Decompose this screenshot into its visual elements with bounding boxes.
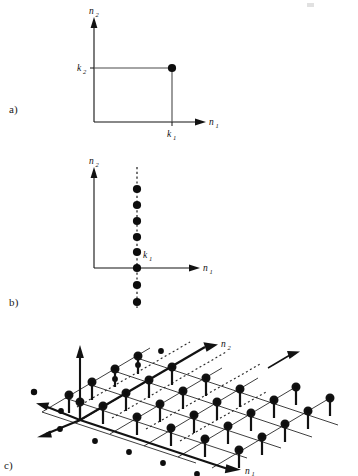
svg-text:n: n bbox=[89, 6, 94, 16]
panel-b-label-k1: k 1 bbox=[143, 250, 152, 262]
svg-text:2: 2 bbox=[96, 11, 100, 18]
panel-a-x-axis bbox=[94, 119, 206, 126]
panel-label-a: a) bbox=[9, 103, 18, 115]
svg-text:2: 2 bbox=[83, 68, 87, 75]
panel-a-sample-dot bbox=[168, 64, 176, 72]
svg-text:n: n bbox=[245, 466, 250, 476]
panel-b-dot bbox=[133, 281, 141, 289]
panel-b-dot bbox=[133, 217, 141, 225]
svg-text:1: 1 bbox=[252, 470, 255, 476]
panel-c-label-n1: n 1 bbox=[245, 466, 255, 476]
svg-text:k: k bbox=[167, 129, 172, 139]
svg-text:n: n bbox=[203, 263, 208, 273]
panel-a-construction-lines bbox=[94, 68, 172, 122]
svg-text:2: 2 bbox=[96, 161, 100, 168]
panel-b-y-axis bbox=[91, 167, 98, 268]
panel-b-label-n1: n 1 bbox=[203, 263, 213, 275]
panel-a-label-n1: n 1 bbox=[209, 117, 219, 129]
panel-b-dot bbox=[133, 185, 141, 193]
panel-c-diagram: n 2 n 1 bbox=[0, 330, 358, 476]
panel-c-label-n2: n 2 bbox=[221, 339, 232, 351]
svg-text:1: 1 bbox=[216, 122, 219, 129]
svg-text:n: n bbox=[89, 156, 94, 166]
figure-root: n 2 n 1 k 2 k 1 a) bbox=[0, 0, 358, 476]
panel-a-label-n2: n 2 bbox=[89, 6, 100, 18]
svg-text:1: 1 bbox=[210, 268, 213, 275]
panel-c-n1-axis bbox=[80, 420, 241, 473]
svg-text:1: 1 bbox=[149, 255, 152, 262]
panel-a-label-k1: k 1 bbox=[167, 129, 176, 141]
panel-a-y-axis bbox=[91, 17, 98, 122]
svg-text:2: 2 bbox=[228, 344, 232, 351]
panel-a-diagram: n 2 n 1 k 2 k 1 bbox=[0, 0, 358, 160]
panel-label-c: c) bbox=[4, 459, 13, 471]
panel-b-dot bbox=[133, 233, 141, 241]
panel-label-b: b) bbox=[9, 296, 19, 308]
svg-text:n: n bbox=[209, 117, 214, 127]
panel-b-dot bbox=[133, 201, 141, 209]
panel-b-diagram: n 2 n 1 k 1 bbox=[0, 150, 358, 340]
svg-text:n: n bbox=[221, 339, 226, 349]
panel-c-negative-rays bbox=[36, 403, 80, 438]
panel-a-label-k2: k 2 bbox=[77, 63, 87, 75]
svg-text:k: k bbox=[143, 250, 148, 260]
panel-c-free-arrow bbox=[268, 351, 300, 368]
panel-c-grid-lines-n1 bbox=[42, 357, 338, 463]
panel-b-dot bbox=[133, 264, 141, 272]
svg-text:k: k bbox=[77, 63, 82, 73]
panel-b-label-n2: n 2 bbox=[89, 156, 100, 168]
svg-text:1: 1 bbox=[173, 134, 176, 141]
panel-b-x-axis bbox=[94, 265, 200, 272]
panel-b-dot bbox=[133, 298, 141, 306]
panel-b-dot bbox=[133, 248, 141, 256]
